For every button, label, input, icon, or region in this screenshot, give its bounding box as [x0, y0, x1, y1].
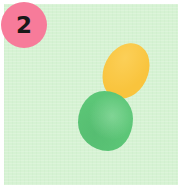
number-badge[interactable]: 2 [1, 2, 47, 48]
green-blob-shape [78, 91, 133, 151]
number-badge-label: 2 [16, 14, 32, 37]
image-canvas: 2 [0, 0, 181, 185]
